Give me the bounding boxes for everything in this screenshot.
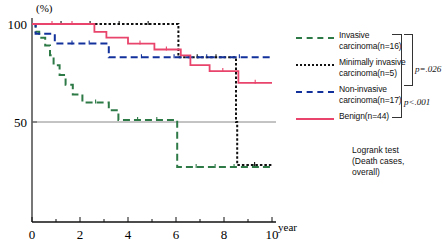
survival-chart-figure: 024681010050(%)year Invasive carcinoma(n… (0, 0, 447, 252)
green-dashed-key (296, 33, 334, 45)
black-dotted-key (296, 60, 334, 72)
series-line-1 (32, 24, 272, 165)
x-tick-label: 4 (125, 227, 132, 242)
p-value-bracket-lower (392, 34, 402, 118)
y-axis-unit-label: (%) (36, 2, 53, 15)
x-tick-label: 6 (173, 227, 180, 242)
logrank-note-line1: Logrank test (352, 145, 404, 156)
blue-dashed-key (296, 87, 334, 99)
logrank-note-line2: (Death cases, (352, 156, 404, 167)
x-tick-label: 0 (29, 227, 36, 242)
chart-legend: Invasive carcinoma(n=16) Minimally invas… (296, 30, 446, 132)
y-tick-label: 50 (14, 115, 27, 130)
x-tick-label: 8 (221, 227, 228, 242)
series-line-2 (32, 24, 272, 57)
logrank-note: Logrank test (Death cases, overall) (352, 145, 404, 178)
p-value-lower: p<.001 (404, 97, 430, 107)
pink-solid-key (296, 114, 334, 126)
p-value-upper: p=.026 (415, 64, 441, 74)
logrank-note-line3: overall) (352, 167, 404, 178)
x-axis-unit-label: year (278, 221, 297, 233)
p-value-bracket-upper (404, 34, 413, 86)
legend-label-benign: Benign(n=44) (339, 111, 389, 122)
x-tick-label: 2 (77, 227, 84, 242)
x-tick-label: 10 (266, 227, 279, 242)
legend-item-benign: Benign(n=44) (296, 111, 446, 126)
y-tick-label: 100 (8, 17, 28, 32)
series-group (32, 21, 272, 168)
legend-item-invasive: Invasive carcinoma(n=16) (296, 30, 446, 51)
